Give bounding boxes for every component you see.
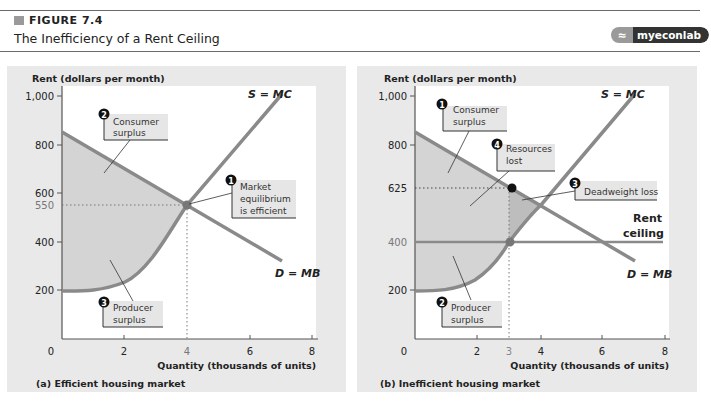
svg-text:6: 6 bbox=[247, 346, 253, 357]
svg-text:6: 6 bbox=[599, 346, 605, 357]
svg-text:1: 1 bbox=[228, 177, 234, 186]
svg-text:4: 4 bbox=[184, 346, 190, 357]
svg-text:625: 625 bbox=[388, 183, 407, 194]
svg-text:550: 550 bbox=[35, 200, 54, 211]
svg-text:equilibrium: equilibrium bbox=[240, 194, 291, 204]
svg-text:is efficient: is efficient bbox=[240, 206, 287, 216]
charts-svg: 1,000 800 600 550 400 200 0 2 4 6 8 Quan… bbox=[0, 0, 711, 412]
svg-text:8: 8 bbox=[309, 346, 315, 357]
svg-text:3: 3 bbox=[506, 346, 512, 357]
svg-text:2: 2 bbox=[474, 346, 480, 357]
svg-text:Consumer: Consumer bbox=[453, 105, 499, 115]
rent-ceiling-label-line2: ceiling bbox=[623, 227, 664, 240]
svg-text:surplus: surplus bbox=[451, 315, 484, 325]
svg-text:Producer: Producer bbox=[113, 303, 153, 313]
svg-text:0: 0 bbox=[48, 346, 54, 357]
svg-text:4: 4 bbox=[494, 141, 500, 150]
y-axis-label-b: Rent (dollars per month) bbox=[384, 73, 517, 84]
svg-text:3: 3 bbox=[101, 299, 107, 308]
demand-label-a: D = MB bbox=[275, 267, 320, 280]
svg-text:4: 4 bbox=[538, 346, 544, 357]
svg-text:Resources: Resources bbox=[506, 144, 552, 154]
svg-text:1,000: 1,000 bbox=[378, 91, 407, 102]
svg-text:Consumer: Consumer bbox=[113, 117, 159, 127]
panel-a-caption: (a) Efficient housing market bbox=[36, 378, 186, 389]
x-tick-labels-b: 0 2 3 4 6 8 bbox=[401, 346, 668, 357]
svg-text:400: 400 bbox=[35, 237, 54, 248]
demand-label-b: D = MB bbox=[627, 268, 672, 281]
svg-text:Deadweight loss: Deadweight loss bbox=[584, 187, 659, 197]
svg-text:surplus: surplus bbox=[453, 117, 486, 127]
y-tick-labels-a: 1,000 800 600 550 400 200 bbox=[25, 91, 54, 296]
x-tick-labels-a: 0 2 4 6 8 bbox=[48, 346, 315, 357]
svg-text:Producer: Producer bbox=[451, 303, 491, 313]
chart-a: 1,000 800 600 550 400 200 0 2 4 6 8 Quan… bbox=[25, 73, 320, 389]
svg-text:lost: lost bbox=[506, 156, 523, 166]
willingness-to-pay-point bbox=[508, 184, 517, 193]
svg-text:800: 800 bbox=[35, 140, 54, 151]
svg-text:surplus: surplus bbox=[113, 128, 146, 138]
x-axis-label-b: Quantity (thousands of units) bbox=[510, 360, 669, 371]
y-axis-label-a: Rent (dollars per month) bbox=[32, 73, 165, 84]
svg-text:8: 8 bbox=[662, 346, 668, 357]
supply-label-a: S = MC bbox=[248, 88, 292, 101]
y-tick-labels-b: 1,000 800 625 400 200 bbox=[378, 91, 407, 296]
supply-label-b: S = MC bbox=[601, 88, 645, 101]
svg-text:200: 200 bbox=[35, 285, 54, 296]
svg-text:1: 1 bbox=[439, 101, 445, 110]
svg-text:surplus: surplus bbox=[113, 315, 146, 325]
svg-text:200: 200 bbox=[388, 285, 407, 296]
svg-text:600: 600 bbox=[35, 188, 54, 199]
x-axis-label-a: Quantity (thousands of units) bbox=[157, 360, 316, 371]
svg-text:Market: Market bbox=[240, 182, 271, 192]
svg-text:1,000: 1,000 bbox=[25, 91, 54, 102]
svg-text:2: 2 bbox=[101, 111, 107, 120]
chart-b: 1,000 800 625 400 200 0 2 3 4 6 8 Quanti… bbox=[378, 73, 672, 389]
equilibrium-point-a bbox=[183, 201, 192, 210]
rent-ceiling-label-line1: Rent bbox=[633, 212, 662, 225]
svg-text:3: 3 bbox=[572, 180, 578, 189]
svg-text:2: 2 bbox=[121, 346, 127, 357]
svg-text:400: 400 bbox=[388, 237, 407, 248]
svg-text:0: 0 bbox=[401, 346, 407, 357]
svg-text:2: 2 bbox=[439, 299, 445, 308]
svg-text:800: 800 bbox=[388, 140, 407, 151]
ceiling-quantity-point bbox=[506, 238, 515, 247]
panel-b-caption: (b) Inefficient housing market bbox=[380, 378, 540, 389]
